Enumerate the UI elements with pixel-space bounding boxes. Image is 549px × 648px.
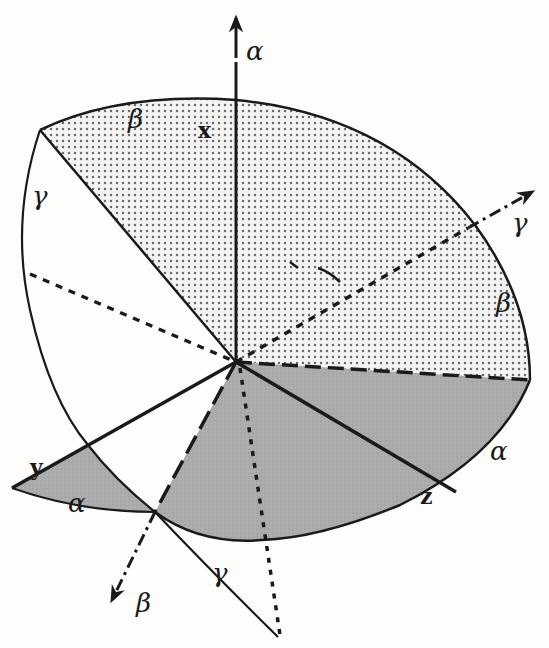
- x-axis-label: x: [198, 117, 212, 143]
- arc-label-alpha-left: α: [68, 488, 86, 518]
- arc-label-gamma-bottom: γ: [212, 558, 228, 588]
- arc-label-alpha-right: α: [490, 436, 508, 466]
- alpha-axis-label: α: [246, 36, 264, 66]
- beta-axis-label: β: [135, 588, 151, 618]
- y-axis-label: y: [29, 454, 44, 480]
- upper-dotted-plane: [40, 99, 530, 380]
- z-axis-label: z: [420, 483, 433, 509]
- euler-angle-diagram: α x β γ γ β α z y α β γ: [0, 0, 549, 648]
- arc-label-gamma-left: γ: [32, 181, 48, 211]
- lower-gray-plane: [155, 362, 530, 541]
- beta-axis-tip: [112, 512, 155, 600]
- arc-label-beta-top: β: [127, 104, 143, 134]
- arc-label-beta-right: β: [495, 288, 511, 318]
- gamma-axis-label: γ: [512, 208, 528, 238]
